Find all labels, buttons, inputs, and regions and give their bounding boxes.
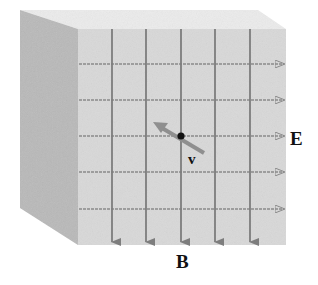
electric-field-label: E — [290, 129, 303, 148]
cube-side-face — [20, 10, 78, 245]
field-cube-diagram — [0, 0, 318, 285]
magnetic-field-label: B — [176, 252, 189, 271]
charged-particle — [177, 132, 184, 139]
velocity-label: v — [188, 152, 196, 167]
